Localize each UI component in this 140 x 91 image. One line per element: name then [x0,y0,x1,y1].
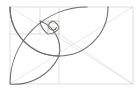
golden-spiral-figure: Fibonacci Golden Spiral Golden rectangle… [0,0,140,91]
golden-spiral-canvas [0,0,140,91]
